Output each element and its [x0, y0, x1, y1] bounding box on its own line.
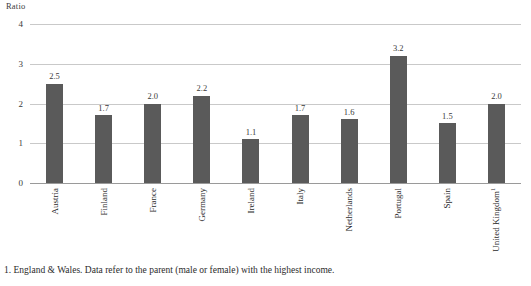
bar-group[interactable]: 1.5	[439, 24, 456, 183]
bar-value-label: 1.1	[246, 128, 257, 137]
x-axis-category-label: Finland	[99, 188, 108, 216]
bar[interactable]	[95, 115, 112, 183]
bar[interactable]	[488, 104, 505, 184]
bar[interactable]	[46, 84, 63, 183]
bar-group[interactable]: 1.7	[292, 24, 309, 183]
bar-group[interactable]: 1.1	[242, 24, 259, 183]
bar[interactable]	[390, 56, 407, 183]
bar-value-label: 1.7	[98, 104, 109, 113]
x-axis-category-label: Spain	[443, 188, 452, 209]
x-axis-category-label: Austria	[50, 188, 59, 215]
chart-footnote: 1. England & Wales. Data refer to the pa…	[4, 265, 524, 276]
x-axis-category-label: Ireland	[246, 188, 255, 213]
bar[interactable]	[242, 139, 259, 183]
x-axis-label-slot: Netherlands	[341, 186, 358, 248]
bars-layer: 2.51.72.02.21.11.71.63.21.52.0	[30, 24, 521, 183]
bar-value-label: 1.6	[344, 108, 355, 117]
y-axis-unit-label: Ratio	[6, 1, 25, 11]
x-axis-category-labels: AustriaFinlandFranceGermanyIrelandItalyN…	[30, 186, 521, 248]
bar[interactable]	[193, 96, 210, 183]
bar[interactable]	[292, 115, 309, 183]
bar-value-label: 2.2	[197, 84, 208, 93]
x-axis-label-slot: Ireland	[242, 186, 259, 248]
bar-group[interactable]: 2.5	[46, 24, 63, 183]
bar-chart-figure: Ratio 01234 2.51.72.02.21.11.71.63.21.52…	[0, 0, 531, 286]
bar-value-label: 1.7	[295, 104, 306, 113]
bar-group[interactable]: 3.2	[390, 24, 407, 183]
x-axis-label-slot: France	[144, 186, 161, 248]
x-axis-category-label: France	[148, 188, 157, 213]
bar-value-label: 2.0	[491, 92, 502, 101]
x-axis-label-slot: Germany	[193, 186, 210, 248]
bar-group[interactable]: 1.6	[341, 24, 358, 183]
x-axis-category-label: United Kingdom1	[492, 188, 501, 252]
y-axis-tick-label: 3	[19, 59, 24, 68]
x-axis-category-label: Netherlands	[345, 188, 354, 231]
x-axis-category-label: Germany	[197, 188, 206, 222]
footnote-marker: 1	[490, 188, 496, 191]
x-axis-label-slot: Austria	[46, 186, 63, 248]
bar-value-label: 2.5	[49, 72, 60, 81]
bar-group[interactable]: 2.0	[488, 24, 505, 183]
x-axis-label-slot: Finland	[95, 186, 112, 248]
bar-value-label: 1.5	[442, 112, 453, 121]
y-axis-tick-label: 2	[19, 99, 24, 108]
bar-value-label: 3.2	[393, 44, 404, 53]
bar[interactable]	[341, 119, 358, 183]
x-axis-label-slot: Spain	[439, 186, 456, 248]
plot-area: 01234 2.51.72.02.21.11.71.63.21.52.0	[30, 24, 521, 183]
bar-group[interactable]: 2.0	[144, 24, 161, 183]
bar-value-label: 2.0	[147, 92, 158, 101]
x-axis-label-slot: Italy	[292, 186, 309, 248]
x-axis-label-slot: United Kingdom1	[488, 186, 505, 248]
x-axis-category-label: Italy	[296, 188, 305, 205]
bar-group[interactable]: 1.7	[95, 24, 112, 183]
bar[interactable]	[144, 104, 161, 184]
bar-group[interactable]: 2.2	[193, 24, 210, 183]
y-axis-tick-label: 1	[19, 139, 24, 148]
x-axis-category-label: Portugal	[394, 188, 403, 219]
y-axis-tick-label: 0	[19, 179, 24, 188]
bar[interactable]	[439, 123, 456, 183]
y-axis-tick-label: 4	[19, 20, 24, 29]
x-axis-label-slot: Portugal	[390, 186, 407, 248]
gridline-0: 0	[30, 183, 521, 184]
